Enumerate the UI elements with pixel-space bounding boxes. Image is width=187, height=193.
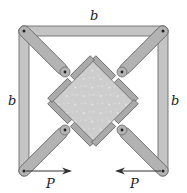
pin-top-right — [162, 30, 165, 33]
top-bar — [19, 26, 168, 36]
pin-inner-bl — [64, 129, 67, 132]
label-force-left: P — [45, 176, 55, 191]
pin-top-left — [23, 30, 26, 33]
right-bar — [158, 26, 168, 176]
pin-inner-tl — [64, 71, 67, 74]
left-bar — [19, 26, 29, 176]
pin-inner-br — [121, 129, 124, 132]
pin-bottom-left — [23, 170, 26, 173]
label-top-b: b — [90, 8, 98, 23]
pin-inner-tr — [121, 71, 124, 74]
label-left-b: b — [8, 93, 16, 108]
label-force-right: P — [129, 176, 139, 191]
pin-bottom-right — [162, 170, 165, 173]
mechanism-diagram: b b b P P — [0, 0, 187, 193]
label-right-b: b — [171, 93, 179, 108]
